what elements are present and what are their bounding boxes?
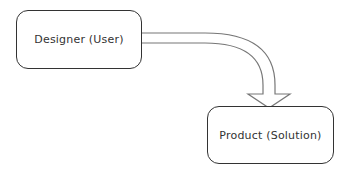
node-label: Product (Solution) <box>219 129 321 142</box>
node-designer-user[interactable]: Designer (User) <box>16 10 142 69</box>
node-label: Designer (User) <box>34 33 123 46</box>
node-product-solution[interactable]: Product (Solution) <box>207 106 334 164</box>
